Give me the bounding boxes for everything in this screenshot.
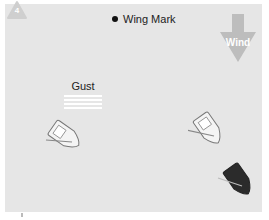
boat-right-lower-icon (216, 158, 260, 200)
step-badge: 4 (6, 0, 28, 20)
boat-right-upper-icon (188, 108, 228, 148)
wing-mark: Wing Mark (112, 13, 176, 25)
gust-line (64, 99, 102, 101)
gust-label: Gust (62, 80, 104, 92)
footnote-mark (21, 213, 23, 217)
mark-buoy-icon (112, 16, 118, 22)
gust-line (64, 107, 102, 109)
gust-zone: Gust (62, 80, 104, 111)
gust-line (64, 103, 102, 105)
wing-mark-label: Wing Mark (123, 13, 176, 25)
gust-line (64, 95, 102, 97)
boat-left-icon (42, 118, 86, 152)
wind-indicator: Wind (218, 14, 258, 64)
wind-label: Wind (218, 37, 258, 48)
step-number: 4 (6, 6, 28, 15)
